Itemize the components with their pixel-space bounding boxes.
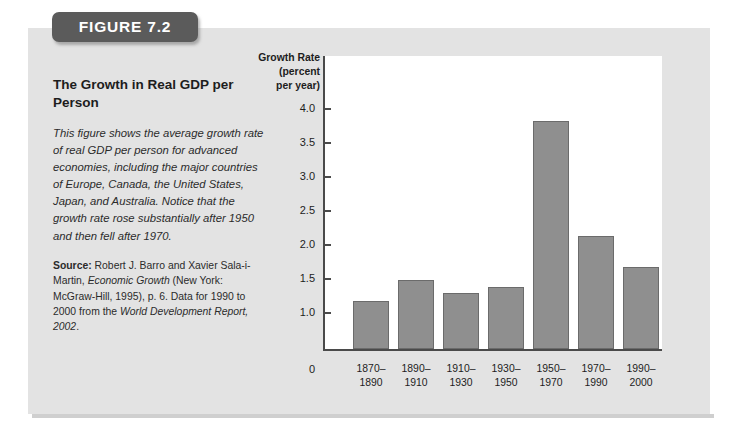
- y-tick-label-1.5: 1.5: [271, 272, 315, 284]
- y-tick-label-2.5: 2.5: [271, 204, 315, 216]
- y-axis-line: [323, 56, 325, 350]
- x-category-label-1890-1910: 1890–1910: [391, 362, 441, 389]
- y-tick-mark-1.0: [323, 312, 331, 313]
- y-tick-label-4.0: 4.0: [271, 102, 315, 114]
- x-category-line-1: 1950: [481, 376, 531, 390]
- bar-1930-1950: [488, 287, 524, 349]
- y-axis-label-line-1: (percent: [258, 65, 320, 79]
- figure-caption: This figure shows the average growth rat…: [53, 125, 265, 245]
- x-category-label-1970-1990: 1970–1990: [571, 362, 621, 389]
- x-category-line-0: 1970–: [571, 362, 621, 376]
- y-axis-label-line-2: per year): [258, 79, 320, 93]
- source-text-3: .: [76, 321, 79, 332]
- x-category-line-1: 1970: [526, 376, 576, 390]
- y-axis-label-line-0: Growth Rate: [258, 51, 320, 65]
- figure-source: Source: Robert J. Barro and Xavier Sala-…: [53, 258, 265, 335]
- x-category-line-0: 1910–: [436, 362, 486, 376]
- x-category-line-1: 1930: [436, 376, 486, 390]
- x-category-line-0: 1890–: [391, 362, 441, 376]
- y-tick-mark-1.5: [323, 278, 331, 279]
- y-tick-mark-4.0: [323, 108, 331, 109]
- y-tick-label-1.0: 1.0: [271, 306, 315, 318]
- source-title-1: Economic Growth: [88, 275, 170, 286]
- y-axis-label: Growth Rate(percentper year): [258, 51, 320, 93]
- bar-1870-1890: [353, 301, 389, 349]
- x-axis-line: [323, 349, 662, 351]
- figure-number-label: FIGURE 7.2: [79, 18, 171, 36]
- x-category-line-1: 1990: [571, 376, 621, 390]
- bar-1950-1970: [533, 121, 569, 349]
- figure-number-banner: FIGURE 7.2: [52, 12, 198, 42]
- bar-1890-1910: [398, 280, 434, 349]
- x-category-line-0: 1950–: [526, 362, 576, 376]
- bar-1970-1990: [578, 236, 614, 349]
- bar-1910-1930: [443, 293, 479, 349]
- y-tick-mark-3.5: [323, 142, 331, 143]
- x-category-line-0: 1870–: [346, 362, 396, 376]
- x-category-line-1: 1910: [391, 376, 441, 390]
- panel-shadow: [32, 414, 714, 418]
- figure-title: The Growth in Real GDP per Person: [53, 76, 265, 112]
- y-tick-mark-3.0: [323, 176, 331, 177]
- y-tick-label-3.0: 3.0: [271, 170, 315, 182]
- x-category-label-1910-1930: 1910–1930: [436, 362, 486, 389]
- x-category-label-1950-1970: 1950–1970: [526, 362, 576, 389]
- y-tick-label-3.5: 3.5: [271, 136, 315, 148]
- figure-text-column: The Growth in Real GDP per Person This f…: [53, 76, 265, 335]
- y-tick-mark-2.5: [323, 210, 331, 211]
- x-category-label-1870-1890: 1870–1890: [346, 362, 396, 389]
- bar-1990-2000: [623, 267, 659, 349]
- y-tick-label-0: 0: [271, 363, 315, 375]
- x-category-line-1: 1890: [346, 376, 396, 390]
- x-category-label-1930-1950: 1930–1950: [481, 362, 531, 389]
- x-category-line-0: 1930–: [481, 362, 531, 376]
- x-category-label-1990-2000: 1990–2000: [616, 362, 666, 389]
- y-tick-mark-2.0: [323, 244, 331, 245]
- source-label: Source:: [53, 260, 92, 271]
- x-category-line-1: 2000: [616, 376, 666, 390]
- y-tick-label-2.0: 2.0: [271, 238, 315, 250]
- x-category-line-0: 1990–: [616, 362, 666, 376]
